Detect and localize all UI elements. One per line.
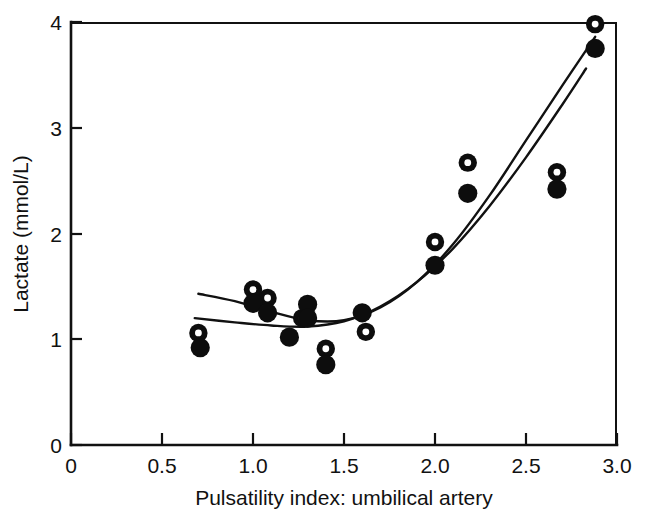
data-point-open-circle-6: [426, 233, 444, 251]
data-point-filled-circle-9: [458, 184, 477, 203]
y-tick-label-4: 4: [50, 11, 62, 34]
data-point-filled-circle-10: [547, 179, 566, 198]
data-point-filled-circle-6: [316, 355, 335, 374]
data-point-open-circle-9: [586, 15, 604, 33]
data-point-filled-circle-3: [280, 328, 299, 347]
filled-marker: [586, 39, 605, 58]
filled-marker: [258, 303, 277, 322]
x-tick-label-0p0: 0: [65, 454, 77, 477]
filled-marker: [280, 328, 299, 347]
data-point-filled-circle-5: [298, 309, 317, 328]
data-markers-layer: [189, 15, 605, 374]
chart-figure: 4 3 2 1 0 0 0.5 1.0 1.5 2.0 2.5 3.0 Pu: [0, 0, 651, 514]
data-point-open-circle-5: [357, 323, 375, 341]
x-tick-label-0p5: 0.5: [147, 454, 176, 477]
y-tick-label-2: 2: [50, 223, 62, 246]
data-point-open-circle-8: [548, 163, 566, 181]
data-point-filled-circle-7: [353, 303, 372, 322]
open-marker-hole: [464, 159, 471, 166]
y-tick-label-3: 3: [50, 117, 62, 140]
plot-frame: [71, 22, 617, 445]
filled-marker: [458, 184, 477, 203]
upper-fitted-curve: [198, 37, 595, 322]
open-marker-hole: [362, 328, 369, 335]
x-axis-tick-labels: 0 0.5 1.0 1.5 2.0 2.5 3.0: [65, 454, 631, 477]
filled-marker: [425, 256, 444, 275]
filled-marker: [316, 355, 335, 374]
filled-marker: [547, 179, 566, 198]
open-marker-hole: [322, 345, 329, 352]
y-axis-title: Lactate (mmol/L): [9, 155, 32, 313]
y-axis-tick-labels: 4 3 2 1 0: [50, 11, 62, 457]
x-tick-label-1p0: 1.0: [238, 454, 267, 477]
x-tick-label-2p0: 2.0: [420, 454, 449, 477]
y-tick-label-1: 1: [50, 328, 62, 351]
x-axis-ticks: [71, 433, 617, 445]
open-marker-hole: [554, 169, 561, 176]
open-marker-hole: [432, 239, 439, 246]
y-tick-label-0: 0: [50, 434, 62, 457]
data-point-filled-circle-8: [425, 256, 444, 275]
filled-marker: [191, 338, 210, 357]
x-tick-label-2p5: 2.5: [511, 454, 540, 477]
y-axis-ticks: [71, 22, 82, 445]
open-marker-hole: [264, 295, 271, 302]
data-point-filled-circle-11: [586, 39, 605, 58]
open-marker-hole: [195, 330, 202, 337]
open-marker-hole: [592, 21, 599, 28]
open-marker-hole: [250, 286, 257, 293]
x-tick-label-1p5: 1.5: [329, 454, 358, 477]
filled-marker: [353, 303, 372, 322]
scatter-plot-canvas: 4 3 2 1 0 0 0.5 1.0 1.5 2.0 2.5 3.0 Pu: [0, 0, 651, 514]
x-tick-label-3p0: 3.0: [602, 454, 631, 477]
data-point-open-circle-7: [459, 153, 477, 171]
x-axis-title: Pulsatility index: umbilical artery: [195, 486, 493, 509]
filled-marker: [298, 309, 317, 328]
data-point-filled-circle-0: [191, 338, 210, 357]
data-point-filled-circle-2: [258, 303, 277, 322]
